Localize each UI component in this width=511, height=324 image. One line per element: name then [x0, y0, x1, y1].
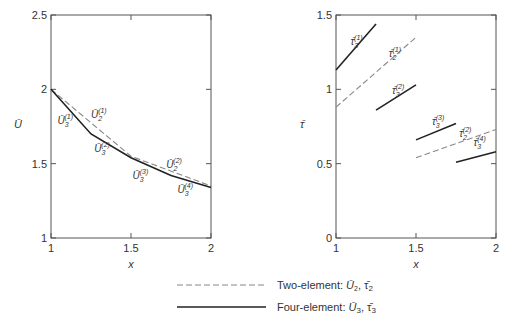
series-annotation: Ū2(1) [91, 107, 107, 122]
legend: Two-element: Ū2, τ̄2 Four-element: Ū3, τ… [177, 279, 376, 315]
y-tick-label: 1 [326, 83, 332, 95]
plot-frame [51, 15, 211, 238]
two-element-line [51, 89, 211, 186]
four-element-segment [456, 152, 496, 162]
plot-frame [336, 15, 496, 238]
series-annotation: Ū3(2) [94, 141, 110, 156]
y-tick-label: 0.5 [317, 158, 332, 170]
y-tick-label: 1.5 [317, 9, 332, 21]
series-annotation: τ̄3(4) [474, 135, 486, 150]
chart-figure: 11.5211.522.5xŪŪ3(1)Ū2(1)Ū3(2)Ū2(2)Ū3(3)… [0, 0, 511, 324]
series-annotation: Ū2(2) [166, 157, 182, 172]
y-tick-label: 1.5 [32, 158, 47, 170]
x-tick-label: 2 [208, 242, 214, 254]
x-tick-label: 1.5 [123, 242, 138, 254]
two-element-segment [416, 129, 496, 157]
series-annotation: τ̄3(2) [392, 83, 404, 98]
x-axis-label: x [127, 258, 134, 270]
legend-label-four-element: Four-element: Ū3, τ̄3 [277, 301, 376, 315]
x-axis-label: x [412, 258, 419, 270]
y-axis-label: Ū [14, 118, 22, 130]
two-element-segment [336, 37, 416, 107]
x-tick-label: 1.5 [408, 242, 423, 254]
y-tick-label: 2 [41, 83, 47, 95]
x-tick-label: 1 [333, 242, 339, 254]
four-element-line [51, 89, 211, 187]
y-axis-label: τ̄ [300, 118, 306, 130]
y-tick-label: 0 [326, 232, 332, 244]
x-tick-label: 1 [48, 242, 54, 254]
series-annotation: τ̄2(1) [389, 46, 401, 61]
series-annotation: τ̄3(3) [432, 114, 444, 129]
series-annotation: Ū3(3) [133, 168, 149, 183]
right-panel-tau-bar: 11.5200.511.5xτ̄τ̄3(1)τ̄2(1)τ̄3(2)τ̄3(3)… [300, 9, 499, 270]
y-tick-label: 1 [41, 232, 47, 244]
left-panel-u-bar: 11.5211.522.5xŪŪ3(1)Ū2(1)Ū3(2)Ū2(2)Ū3(3)… [14, 9, 214, 270]
series-annotation: Ū3(1) [57, 113, 73, 128]
series-annotation: Ū3(4) [177, 182, 193, 197]
y-tick-label: 2.5 [32, 9, 47, 21]
legend-label-two-element: Two-element: Ū2, τ̄2 [277, 279, 373, 293]
x-tick-label: 2 [493, 242, 499, 254]
